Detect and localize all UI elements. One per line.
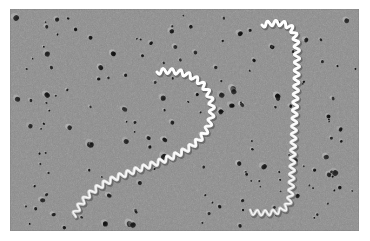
micrograph-canvas <box>10 9 359 231</box>
micrograph-page <box>0 0 370 241</box>
electron-micrograph-image <box>10 9 359 231</box>
membrane-pore <box>172 77 174 80</box>
membrane-pore <box>88 169 90 172</box>
membrane-pore <box>321 60 324 63</box>
